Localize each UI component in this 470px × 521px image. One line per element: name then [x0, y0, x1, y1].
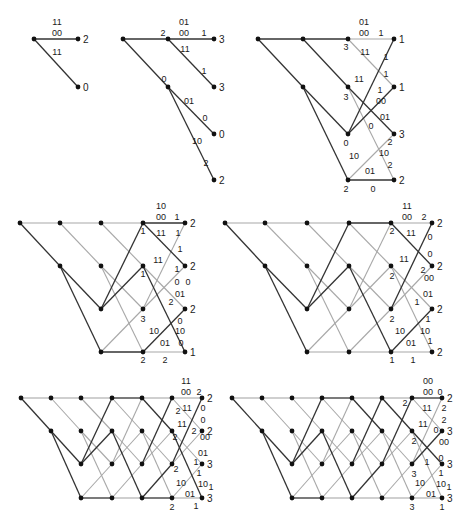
branch-label: 10 [420, 326, 430, 336]
branch-label: 1 [193, 457, 198, 467]
path-metric: 3 [399, 129, 405, 140]
survivor-branch [352, 464, 382, 498]
discarded-branch [262, 398, 292, 431]
branch-label: 2 [191, 426, 196, 436]
state-node [76, 37, 81, 42]
survivor-branch [168, 39, 214, 87]
branch-label: 00 [359, 28, 369, 38]
branch-label: 00 [439, 437, 449, 447]
state-node [200, 462, 205, 467]
state-node [350, 462, 355, 467]
branch-label: 01 [185, 489, 195, 499]
branch-label: 1 [201, 66, 206, 76]
state-node [347, 350, 352, 355]
state-node [346, 178, 351, 183]
branch-label: 2 [203, 158, 208, 168]
branch-label: 2 [162, 355, 167, 365]
state-node [430, 307, 435, 312]
branch-label: 2 [196, 387, 201, 397]
discarded-branch [322, 398, 352, 464]
branch-label: 01 [184, 96, 194, 106]
branch-label: 11 [181, 376, 190, 386]
survivor-branch [352, 398, 382, 431]
state-node [256, 37, 261, 42]
path-metric: 3 [207, 493, 213, 504]
discarded-branch [112, 398, 142, 431]
state-node [183, 264, 188, 269]
branch-label: 11 [418, 419, 427, 429]
branch-label: 00 [156, 212, 166, 222]
branch-label: 1 [424, 457, 429, 467]
state-node [32, 37, 37, 42]
branch-label: 1 [383, 52, 388, 62]
branch-label: 1 [446, 482, 451, 492]
branch-label: 0 [437, 387, 442, 397]
branch-label: 1 [193, 501, 198, 511]
branch-label: 0 [161, 74, 166, 84]
survivor-branch [20, 223, 60, 266]
branch-label: 10 [156, 201, 166, 211]
trellis-panel-3: 1132010013111111130001002101020120 [256, 17, 405, 194]
path-metric: 3 [219, 82, 225, 93]
state-node [166, 37, 171, 42]
discarded-branch [322, 398, 352, 431]
state-node [290, 396, 295, 401]
trellis-figure: 2011001133022010011110010102113201001311… [0, 0, 470, 521]
survivor-branch [292, 398, 322, 464]
discarded-branch [112, 464, 142, 498]
survivor-branch [51, 431, 81, 464]
survivor-branch [101, 223, 143, 309]
state-node [99, 307, 104, 312]
state-node [141, 350, 146, 355]
branch-label: 2 [441, 403, 446, 413]
branch-label: 0 [200, 403, 205, 413]
trellis-panel-6: 2233110022110011200201121101010121 [19, 376, 214, 512]
branch-label: 2 [402, 398, 407, 408]
state-node [110, 462, 115, 467]
branch-label: 1 [383, 69, 388, 79]
branch-label: 01 [175, 289, 185, 299]
discarded-branch [101, 223, 143, 266]
state-node [392, 37, 397, 42]
branch-label: 2 [387, 137, 392, 147]
survivor-branch [307, 223, 349, 309]
branch-label: 1 [414, 297, 419, 307]
branch-label: 2 [168, 297, 173, 307]
survivor-branch [142, 398, 172, 464]
state-node [320, 429, 325, 434]
path-metric: 1 [190, 347, 196, 358]
state-node [110, 429, 115, 434]
state-node [263, 221, 268, 226]
state-node [19, 396, 24, 401]
branch-label: 2 [173, 464, 178, 474]
path-metric: 2 [437, 218, 443, 229]
branch-label: 2 [441, 415, 446, 425]
path-metric: 3 [447, 426, 453, 437]
survivor-branch [232, 398, 262, 431]
state-node [260, 396, 265, 401]
survivor-branch [60, 266, 101, 309]
state-node [305, 350, 310, 355]
state-node [410, 462, 415, 467]
state-node [212, 85, 217, 90]
discarded-branch [307, 309, 349, 352]
discarded-branch [112, 398, 142, 464]
state-node [263, 264, 268, 269]
path-metric: 3 [447, 459, 453, 470]
state-node [18, 221, 23, 226]
trellis-panel-5: 2222110022110011220001121101010111 [223, 201, 443, 365]
survivor-branch [142, 464, 172, 498]
path-metric: 3 [207, 459, 213, 470]
branch-label: 2 [421, 212, 426, 222]
discarded-branch [349, 223, 391, 266]
branch-label: 11 [177, 419, 186, 429]
state-node [183, 350, 188, 355]
state-node [392, 132, 397, 137]
branch-label: 11 [156, 228, 165, 238]
discarded-branch [307, 266, 349, 352]
branch-label: 00 [52, 28, 62, 38]
branch-label: 0 [427, 249, 432, 259]
branch-label: 3 [343, 92, 348, 102]
branch-label: 3 [140, 314, 145, 324]
state-node [183, 221, 188, 226]
